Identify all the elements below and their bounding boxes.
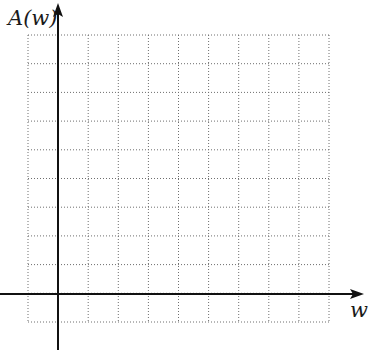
x-axis-label: w [350, 298, 368, 322]
coordinate-axes [0, 3, 364, 350]
y-axis-label: A(w) [6, 6, 58, 30]
dotted-grid [28, 35, 329, 322]
blank-graph-figure: A(w) w [0, 0, 375, 350]
